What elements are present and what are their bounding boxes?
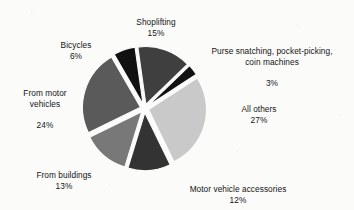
slice-label-text: From buildings: [36, 170, 91, 180]
slice-label-from-buildings: From buildings 13%: [12, 160, 116, 202]
slice-label-purse-snatching: Purse snatching, pocket-picking, coin ma…: [193, 36, 351, 98]
slice-label-text-line1: From motor: [23, 88, 66, 98]
slice-label-text-line2: coin machines: [193, 57, 351, 67]
slice-label-value: 13%: [12, 181, 116, 191]
slice-label-text-line1: Purse snatching, pocket-picking,: [211, 46, 332, 56]
slice-label-text: Shoplifting: [136, 17, 175, 27]
slice-label-text-line2: vehicles: [2, 99, 88, 109]
pie-chart-figure: Shoplifting 15% Purse snatching, pocket-…: [0, 0, 354, 210]
slice-label-shoplifting: Shoplifting 15%: [112, 7, 200, 49]
slice-label-from-motor-vehicles: From motor vehicles 24%: [2, 78, 88, 140]
slice-label-value: 3%: [193, 78, 351, 88]
slice-label-text: Bicycles: [61, 40, 92, 50]
slice-label-value: 24%: [2, 120, 88, 130]
slice-label-value: 6%: [40, 51, 112, 61]
slice-label-motor-vehicle-accessories: Motor vehicle accessories 12%: [158, 174, 318, 210]
slice-label-value: 12%: [158, 195, 318, 205]
slice-label-text: Motor vehicle accessories: [190, 184, 287, 194]
slice-label-value: 27%: [215, 115, 303, 125]
slice-label-value: 15%: [112, 28, 200, 38]
slice-label-all-others: All others 27%: [215, 94, 303, 136]
slice-label-text: All others: [241, 104, 276, 114]
slice-label-bicycles: Bicycles 6%: [40, 30, 112, 72]
